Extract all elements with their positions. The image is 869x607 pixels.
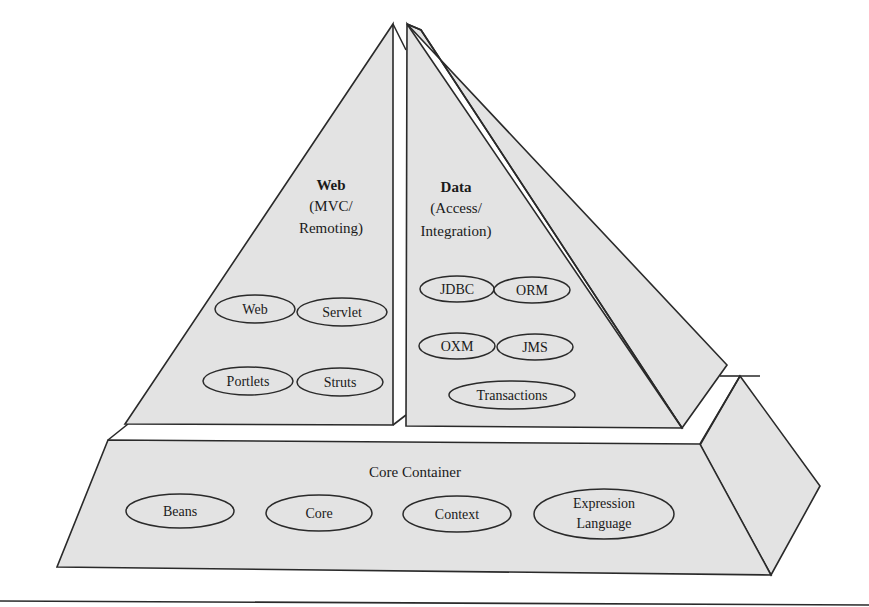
svg-text:Expression: Expression	[573, 496, 635, 511]
svg-text:Web: Web	[242, 302, 267, 317]
module-web: Web	[215, 295, 295, 323]
module-portlets: Portlets	[203, 367, 293, 395]
module-transactions: Transactions	[449, 381, 575, 409]
module-core: Core	[266, 495, 372, 531]
svg-text:Transactions: Transactions	[476, 388, 547, 403]
data-layer-subtitle-1: (Access/	[430, 200, 482, 217]
module-expression-language: Expression Language	[534, 489, 674, 539]
svg-text:Language: Language	[576, 516, 631, 531]
module-context: Context	[403, 496, 511, 532]
module-orm: ORM	[494, 277, 570, 303]
web-layer-subtitle-1: (MVC/	[309, 198, 353, 215]
module-struts: Struts	[297, 368, 383, 396]
module-servlet: Servlet	[297, 298, 387, 326]
module-jms: JMS	[497, 334, 573, 360]
svg-text:Struts: Struts	[324, 375, 357, 390]
module-beans: Beans	[126, 494, 234, 528]
svg-text:Core: Core	[305, 506, 332, 521]
web-layer-subtitle-2: Remoting)	[299, 220, 363, 237]
svg-text:OXM: OXM	[441, 339, 474, 354]
core-container-title: Core Container	[369, 464, 461, 480]
svg-text:Context: Context	[435, 507, 479, 522]
svg-text:Beans: Beans	[163, 504, 197, 519]
module-jdbc: JDBC	[420, 276, 494, 302]
data-layer-subtitle-2: Integration)	[421, 223, 492, 240]
spring-architecture-pyramid-diagram: Web (MVC/ Remoting) Web Servlet Portlets…	[0, 0, 869, 607]
svg-text:JDBC: JDBC	[440, 282, 474, 297]
web-layer-block	[125, 24, 406, 425]
module-oxm: OXM	[419, 333, 495, 359]
svg-text:Portlets: Portlets	[227, 374, 270, 389]
web-layer-title: Web	[316, 177, 345, 193]
bottom-divider-rule	[0, 601, 869, 605]
svg-text:Servlet: Servlet	[322, 305, 362, 320]
data-layer-title: Data	[441, 179, 472, 195]
svg-text:ORM: ORM	[516, 283, 548, 298]
svg-text:JMS: JMS	[522, 340, 548, 355]
